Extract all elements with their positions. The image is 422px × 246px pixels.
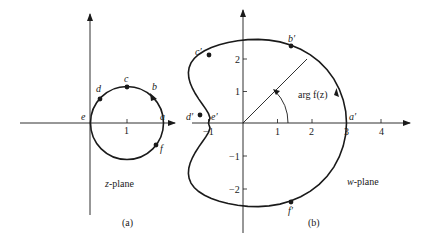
- z-tick-label-1: 1: [124, 125, 129, 136]
- point-c-prime: [207, 53, 212, 58]
- w-xtick-label-2: 2: [309, 126, 314, 137]
- w-ytick-label-neg1: −1: [229, 151, 240, 162]
- w-xtick-label-4: 4: [379, 126, 384, 137]
- point-f-prime: [289, 200, 294, 205]
- point-f: [154, 143, 159, 148]
- point-b-prime: [289, 44, 294, 49]
- point-c: [125, 85, 130, 90]
- label-d-prime: d′: [186, 111, 194, 122]
- figure-canvas: 1 a b c d e f z-plane (a) −1 1 2 3 4: [0, 0, 422, 246]
- point-d-prime: [198, 113, 203, 118]
- w-ytick-label-1: 1: [235, 86, 240, 97]
- label-f: f: [160, 143, 164, 154]
- label-a: a: [160, 111, 165, 122]
- w-ytick-label-2: 2: [235, 54, 240, 65]
- caption-a: (a): [122, 217, 133, 229]
- label-d: d: [96, 83, 102, 94]
- label-c: c: [124, 73, 129, 84]
- w-plane-label: w-plane: [347, 176, 379, 187]
- label-e: e: [81, 111, 86, 122]
- arg-label: arg f(z): [298, 89, 328, 101]
- label-c-prime: c′: [195, 46, 202, 57]
- point-d: [98, 97, 103, 102]
- label-e-prime: e′: [211, 111, 218, 122]
- arg-arc: [275, 91, 288, 123]
- w-xtick-label-1: 1: [275, 126, 280, 137]
- label-f-prime: f′: [288, 205, 294, 216]
- w-ytick-label-neg2: −2: [229, 184, 240, 195]
- z-plane-panel: 1 a b c d e f z-plane (a): [20, 14, 175, 229]
- label-b-prime: b′: [288, 33, 296, 44]
- label-a-prime: a′: [349, 111, 357, 122]
- z-plane-label: z-plane: [104, 178, 134, 189]
- label-b: b: [152, 81, 157, 92]
- caption-b: (b): [308, 217, 320, 229]
- w-plane-panel: −1 1 2 3 4 2 1 −1 −2 arg f(z) a′ b′ c′ d…: [186, 10, 410, 233]
- w-direction-arrow-icon: [334, 88, 339, 97]
